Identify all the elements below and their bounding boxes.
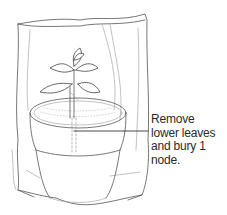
annotation-line-2: lower leaves: [151, 127, 215, 141]
plastic-bag: [12, 14, 149, 205]
annotation-label: Remove lower leaves and bury 1 node.: [151, 113, 215, 167]
bagged-pot-drawing: [0, 0, 227, 215]
annotation-line-3: and bury 1: [151, 140, 215, 154]
flower-pot: [30, 98, 126, 203]
plant-cutting: [40, 48, 100, 118]
annotation-line-4: node.: [151, 154, 215, 168]
plant-cutting-illustration: [0, 0, 227, 215]
annotation-line-1: Remove: [151, 113, 215, 127]
